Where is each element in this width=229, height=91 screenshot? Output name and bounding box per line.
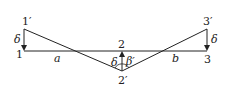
label-beta-prime: β′ xyxy=(125,55,135,68)
label-1: 1 xyxy=(16,48,23,61)
displacement-diagram: 1′ δ 1 a 2 δ β′ 2′ b 3′ δ 3 xyxy=(0,0,229,91)
label-delta-mid: δ xyxy=(111,56,118,69)
label-3: 3 xyxy=(204,53,211,66)
label-3prime: 3′ xyxy=(203,15,213,28)
label-2: 2 xyxy=(118,38,125,51)
label-1prime: 1′ xyxy=(22,15,32,28)
label-2prime: 2′ xyxy=(118,74,128,87)
label-delta-left: δ xyxy=(14,33,21,46)
left-displaced-line xyxy=(24,29,122,71)
label-delta-right: δ xyxy=(211,33,218,46)
label-b: b xyxy=(172,52,179,65)
label-a: a xyxy=(54,52,61,65)
